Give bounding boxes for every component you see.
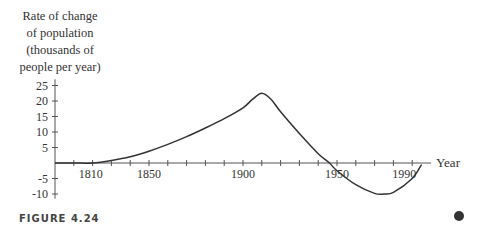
y-tick-label: 25 xyxy=(36,79,48,93)
y-tick-label: 10 xyxy=(36,125,48,139)
y-tick-label: 5 xyxy=(42,141,48,155)
x-tick-label: 1810 xyxy=(79,167,103,181)
y-tick-label: 15 xyxy=(36,110,48,124)
x-axis-label: Year xyxy=(436,155,461,170)
x-tick-label: 1950 xyxy=(325,167,349,181)
bullet-dot xyxy=(454,211,464,221)
x-tick-label: 1850 xyxy=(137,167,161,181)
chart-plot: 252015105-5-1018101850190019501990Year xyxy=(0,0,479,235)
y-tick-label: -5 xyxy=(38,172,48,186)
figure-caption: FIGURE 4.24 xyxy=(19,213,100,224)
y-tick-label: 20 xyxy=(36,94,48,108)
y-tick-label: -10 xyxy=(32,187,48,201)
x-tick-label: 1900 xyxy=(231,167,255,181)
